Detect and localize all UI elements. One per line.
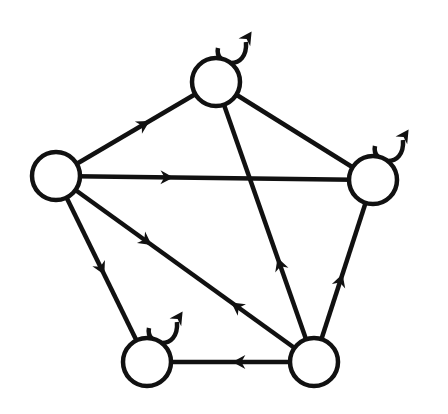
edge-left-to-bottom-right [56,176,314,362]
node-right [349,156,397,204]
edge-left-to-bottom-left [56,176,147,362]
edge-line [216,82,314,362]
graph-svg [0,0,448,414]
edge-line [216,82,373,180]
edge-bottom-right-to-top [216,82,314,362]
node-left [32,152,80,200]
edge-line [56,82,216,176]
edge-left-to-right [56,170,373,184]
node-bottom-left [123,338,171,386]
node-bottom-right [290,338,338,386]
edge-top-to-right [216,82,373,180]
edge-left-to-top [56,82,216,176]
edge-bottom-right-to-right [314,180,373,362]
graph-diagram [0,0,448,414]
node-top [192,58,240,106]
edge-line [56,176,314,362]
edge-line [314,180,373,362]
edges-layer [56,82,373,369]
nodes-layer [32,58,397,386]
edge-line [56,176,373,180]
